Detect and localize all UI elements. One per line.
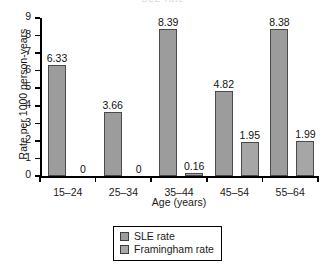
y-tick: 7 xyxy=(35,52,40,54)
bar-value-label: 6.33 xyxy=(47,52,67,64)
x-tick xyxy=(95,176,97,182)
y-tick-label: 3 xyxy=(25,116,31,128)
y-axis-line xyxy=(40,18,42,176)
bar-value-label: 3.66 xyxy=(102,99,122,111)
bar xyxy=(185,173,203,176)
legend-label-framingham: Framingham rate xyxy=(134,243,214,256)
bar-value-label: 0 xyxy=(80,163,86,175)
x-axis-title: Age (years) xyxy=(40,196,318,208)
y-tick: 2 xyxy=(35,140,40,142)
bar xyxy=(48,65,66,176)
y-tick: 9 xyxy=(35,17,40,19)
bar-value-label: 0.16 xyxy=(184,160,204,172)
bar xyxy=(104,112,122,176)
bar xyxy=(159,29,177,176)
x-axis-line xyxy=(40,176,318,178)
y-tick: 5 xyxy=(35,87,40,89)
y-tick-label: 0 xyxy=(25,168,31,180)
bar-value-label: 8.39 xyxy=(158,16,178,28)
x-tick xyxy=(206,176,208,182)
y-tick-label: 2 xyxy=(25,133,31,145)
y-tick: 3 xyxy=(35,123,40,125)
legend-item-sle: SLE rate xyxy=(120,230,215,243)
bar-value-label: 1.99 xyxy=(295,128,315,140)
y-tick: 6 xyxy=(35,70,40,72)
plot-area: 0123456789 15–2425–3435–4445–5455–64 6.3… xyxy=(40,18,318,176)
y-tick: 1 xyxy=(35,158,40,160)
bar-value-label: 0 xyxy=(136,163,142,175)
legend-swatch-framingham-icon xyxy=(120,245,129,254)
legend: SLE rate Framingham rate xyxy=(113,226,222,261)
x-tick xyxy=(39,176,41,182)
x-tick xyxy=(262,176,264,182)
bar xyxy=(296,141,314,176)
y-tick: 8 xyxy=(35,35,40,37)
bar xyxy=(215,91,233,176)
y-tick-label: 7 xyxy=(25,45,31,57)
clipped-title: SLE rate xyxy=(0,0,326,4)
legend-item-framingham: Framingham rate xyxy=(120,243,215,256)
x-tick xyxy=(150,176,152,182)
y-tick-label: 8 xyxy=(25,28,31,40)
bar-value-label: 8.38 xyxy=(269,16,289,28)
bar-value-label: 1.95 xyxy=(240,129,260,141)
y-tick-label: 6 xyxy=(25,63,31,75)
bar xyxy=(270,29,288,176)
y-tick: 4 xyxy=(35,105,40,107)
bar-value-label: 4.82 xyxy=(214,78,234,90)
legend-swatch-sle-icon xyxy=(120,232,129,241)
legend-label-sle: SLE rate xyxy=(134,230,175,243)
x-tick xyxy=(317,176,319,182)
bar xyxy=(241,142,259,176)
y-tick-label: 1 xyxy=(25,151,31,163)
y-tick-label: 5 xyxy=(25,80,31,92)
y-tick-label: 9 xyxy=(25,10,31,22)
bar-chart-figure: SLE rate Rate per 1000 person-years 0123… xyxy=(0,0,326,265)
y-tick-label: 4 xyxy=(25,98,31,110)
